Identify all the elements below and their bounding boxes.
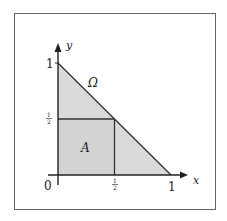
y-half-denominator: 2 [47, 118, 51, 125]
y-axis-label: y [65, 39, 73, 52]
x-half-denominator: 2 [113, 184, 117, 191]
y-tick-one-label: 1 [46, 57, 54, 71]
y-half-numerator: 1 [47, 111, 51, 118]
x-axis-label: x [193, 174, 200, 187]
x-axis-arrow-icon [180, 172, 188, 179]
region-omega-label: Ω [87, 76, 98, 90]
x-tick-one-label: 1 [168, 180, 176, 194]
x-half-numerator: 1 [113, 177, 117, 184]
region-a-label: A [80, 141, 90, 155]
x-tick-half-label: 1 2 [112, 177, 118, 191]
diagram-canvas: x y 0 1 1 1 2 1 2 Ω A [0, 0, 227, 221]
origin-label: 0 [44, 179, 52, 193]
y-tick-half-label: 1 2 [46, 111, 52, 125]
y-axis-arrow-icon [55, 43, 62, 52]
